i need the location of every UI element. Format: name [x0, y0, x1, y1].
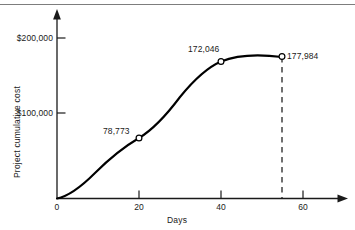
x-tick-label-0: 0 [47, 203, 67, 212]
x-tick-label-60: 60 [293, 203, 313, 212]
x-tick-label-40: 40 [211, 203, 231, 212]
data-label-172046: 172,046 [188, 45, 219, 54]
y-tick-label-200000: $200,000 [0, 34, 53, 43]
x-tick-label-20: 20 [129, 203, 149, 212]
chart-canvas [0, 0, 355, 230]
x-axis-arrow [338, 194, 349, 202]
chart-figure: Project cumulative cost $200,000 $100,00… [0, 0, 355, 230]
data-label-177984: 177,984 [287, 52, 318, 61]
y-axis-arrow [53, 9, 61, 20]
cumulative-cost-curve [57, 55, 282, 198]
data-marker-172046 [218, 59, 224, 65]
x-axis-title: Days [167, 216, 187, 225]
y-tick-label-100000: $100,000 [0, 109, 53, 118]
data-label-78773: 78,773 [103, 127, 130, 136]
data-marker-177984 [279, 54, 285, 60]
y-axis-title: Project cumulative cost [13, 86, 22, 178]
data-marker-78773 [136, 135, 142, 141]
